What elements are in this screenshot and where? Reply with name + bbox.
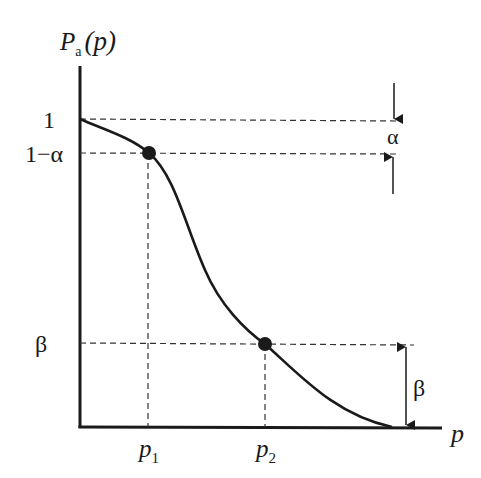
x-tick-p1: p1	[137, 435, 159, 466]
oc-curve-diagram: Pa(p) 1 1−α β α β p p1 p2	[0, 0, 481, 478]
dashed-line-beta	[80, 343, 414, 345]
y-tick-one-minus-alpha: 1−α	[25, 141, 64, 167]
y-tick-beta: β	[35, 331, 47, 357]
y-tick-one: 1	[43, 107, 55, 133]
dashed-line-one-minus-alpha	[80, 153, 397, 154]
x-axis-label: p	[449, 419, 464, 448]
alpha-gap-label: α	[387, 124, 399, 149]
dashed-line-one	[80, 119, 397, 121]
y-axis-label: Pa(p)	[59, 26, 116, 59]
point-p1	[142, 146, 156, 160]
beta-gap-label: β	[413, 375, 425, 401]
x-tick-p2: p2	[254, 435, 276, 466]
point-p2	[258, 337, 272, 351]
diagram-canvas: Pa(p) 1 1−α β α β p p1 p2	[0, 0, 481, 478]
oc-curve	[80, 119, 392, 427]
